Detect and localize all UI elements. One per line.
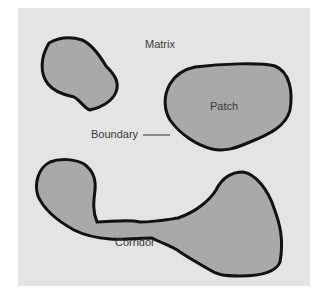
corridor-label: Corridor	[115, 236, 155, 248]
boundary-label: Boundary	[91, 128, 138, 140]
small-patch	[42, 38, 117, 110]
corridor-patches	[37, 160, 282, 276]
matrix-label: Matrix	[145, 38, 175, 50]
patch-label: Patch	[210, 100, 238, 112]
